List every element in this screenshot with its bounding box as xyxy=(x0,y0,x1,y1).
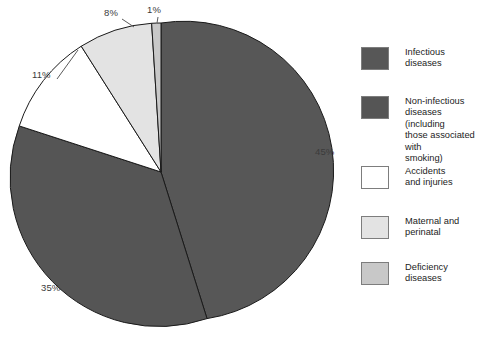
legend-swatch-non-infectious-diseases xyxy=(361,96,389,119)
legend-swatch-deficiency-diseases xyxy=(361,262,389,285)
legend-item-infectious-diseases[interactable]: Infectious diseases xyxy=(361,47,445,70)
pie-label-accidents-and-injuries: 11% xyxy=(32,69,51,80)
pie-label-infectious-diseases: 45% xyxy=(315,146,334,157)
pie-label-non-infectious-diseases: 35% xyxy=(41,282,60,293)
legend-item-accidents-and-injuries[interactable]: Accidents and injuries xyxy=(361,166,453,189)
leader-line-deficiency xyxy=(157,17,158,23)
legend-label-infectious-diseases: Infectious diseases xyxy=(405,47,445,70)
pie-label-deficiency-diseases: 1% xyxy=(147,4,161,15)
legend-label-maternal-and-perinatal: Maternal and perinatal xyxy=(405,216,459,239)
pie-label-maternal-and-perinatal: 8% xyxy=(104,7,118,18)
legend-item-non-infectious-diseases[interactable]: Non-infectious diseases (including those… xyxy=(361,96,477,164)
leader-line-maternal xyxy=(122,19,134,27)
legend-swatch-infectious-diseases xyxy=(361,47,389,70)
legend-item-maternal-and-perinatal[interactable]: Maternal and perinatal xyxy=(361,216,459,239)
pie-chart: 45% 35% 11% 8% 1% xyxy=(0,0,340,338)
legend-swatch-accidents-and-injuries xyxy=(361,166,389,189)
legend-swatch-maternal-and-perinatal xyxy=(361,216,389,239)
legend-label-non-infectious-diseases: Non-infectious diseases (including those… xyxy=(405,96,477,164)
legend-label-accidents-and-injuries: Accidents and injuries xyxy=(405,166,453,189)
legend-label-deficiency-diseases: Deficiency diseases xyxy=(405,262,477,285)
legend-item-deficiency-diseases[interactable]: Deficiency diseases xyxy=(361,262,477,285)
